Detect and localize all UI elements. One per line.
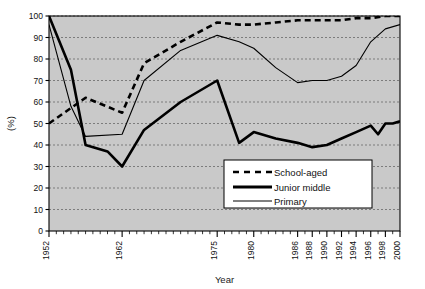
line-chart: 0102030405060708090100(%)195219621975198… xyxy=(0,0,425,289)
y-axis-title: (%) xyxy=(5,116,16,131)
y-axis: 0102030405060708090100 xyxy=(29,11,49,236)
y-tick-label: 20 xyxy=(34,183,44,193)
y-tick-label: 50 xyxy=(34,119,44,129)
x-tick-label: 1996 xyxy=(363,241,373,260)
y-tick-label: 80 xyxy=(34,54,44,64)
legend-label-junior-middle: Junior middle xyxy=(274,182,331,193)
y-tick-label: 90 xyxy=(34,33,44,43)
y-tick-label: 100 xyxy=(29,11,43,21)
x-tick-label: 1980 xyxy=(246,241,256,260)
x-tick-label: 1952 xyxy=(41,241,51,260)
x-axis-title: Year xyxy=(215,274,234,285)
x-tick-label: 1975 xyxy=(209,241,219,260)
x-axis: 1952196219751980198619881990199219941996… xyxy=(41,231,402,260)
y-tick-label: 10 xyxy=(34,205,44,215)
y-tick-label: 40 xyxy=(34,140,44,150)
y-tick-label: 70 xyxy=(34,76,44,86)
y-tick-label: 60 xyxy=(34,97,44,107)
x-tick-label: 2000 xyxy=(392,241,402,260)
x-tick-label: 1988 xyxy=(304,241,314,260)
x-tick-label: 1962 xyxy=(114,241,124,260)
x-tick-label: 1990 xyxy=(319,241,329,260)
chart-figure: 0102030405060708090100(%)195219621975198… xyxy=(0,0,425,289)
legend: School-agedJunior middlePrimary xyxy=(224,160,372,208)
y-tick-label: 30 xyxy=(34,162,44,172)
legend-label-primary: Primary xyxy=(274,196,307,207)
x-tick-label: 1994 xyxy=(348,241,358,260)
y-tick-label: 0 xyxy=(38,226,43,236)
x-tick-label: 1986 xyxy=(290,241,300,260)
legend-label-school-aged: School-aged xyxy=(274,167,327,178)
x-tick-label: 1998 xyxy=(377,241,387,260)
x-tick-label: 1992 xyxy=(334,241,344,260)
